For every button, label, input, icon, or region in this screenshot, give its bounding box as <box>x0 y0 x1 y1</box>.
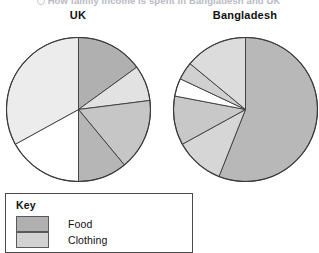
pie-chart-uk <box>5 36 152 183</box>
key-label-food: Food <box>68 218 92 230</box>
cutoff-header-text: How family income is spent in Bangladesh… <box>0 0 317 7</box>
header-text: How family income is spent in Bangladesh… <box>48 0 281 6</box>
pie-bangladesh-svg <box>172 36 319 183</box>
key-label-clothing: Clothing <box>68 234 107 246</box>
pie-chart-bangladesh <box>172 36 319 183</box>
key-item-clothing: Clothing <box>16 232 107 248</box>
key-item-food: Food <box>16 216 92 232</box>
key-swatch-clothing <box>16 232 49 248</box>
pie-uk-svg <box>5 36 152 183</box>
chart-title-uk: UK <box>28 9 128 21</box>
key-swatch-food <box>16 216 49 232</box>
bullet-icon <box>37 0 45 5</box>
key-legend-box: Key Food Clothing <box>5 193 193 253</box>
key-title: Key <box>16 199 36 211</box>
chart-title-bangladesh: Bangladesh <box>193 9 297 21</box>
